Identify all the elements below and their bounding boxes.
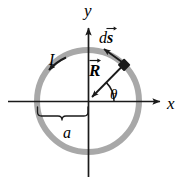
physics-figure: y x I a θ d s R (0, 0, 186, 180)
x-axis-label: x (167, 95, 175, 112)
ds-d-glyph: d (99, 29, 107, 46)
radius-label: a (63, 125, 71, 141)
theta-label: θ (110, 87, 117, 102)
position-vector-label: R (89, 62, 100, 79)
figure-canvas (0, 0, 186, 180)
R-vector-group: R (89, 62, 100, 79)
radius-brace (38, 107, 89, 120)
ds-s-glyph: s (107, 29, 113, 46)
R-glyph: R (89, 61, 100, 80)
ds-vector-label: d s (99, 30, 113, 46)
current-label: I (49, 52, 54, 68)
y-axis-label: y (84, 2, 92, 19)
ds-s-vector-group: s (107, 30, 113, 46)
